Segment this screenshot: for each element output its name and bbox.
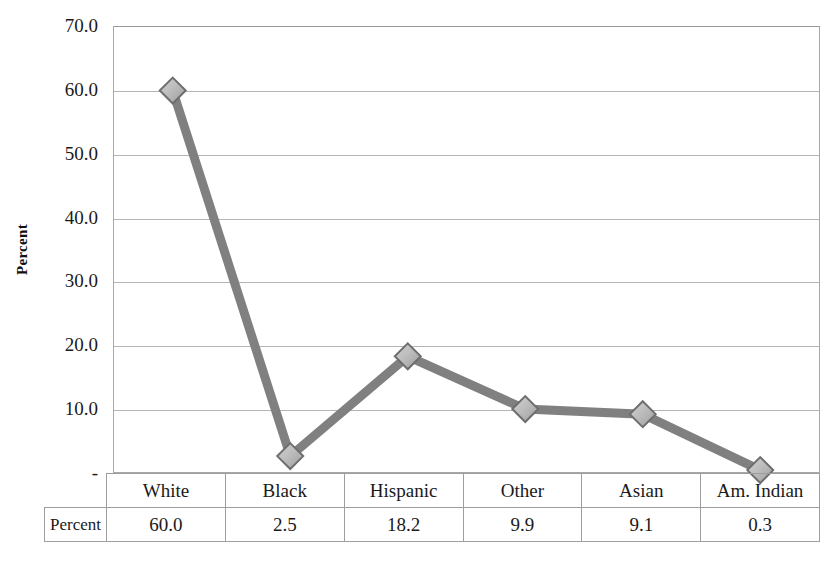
y-axis-tick-label: 30.0: [0, 271, 98, 290]
table-category-cell: Hispanic: [344, 474, 463, 508]
table-row-categories: WhiteBlackHispanicOtherAsianAm. Indian: [45, 474, 820, 508]
table-value-cell: 2.5: [225, 508, 344, 542]
table-value-cell: 0.3: [701, 508, 820, 542]
y-axis-tick-label: 60.0: [0, 80, 98, 99]
table-value-cell: 9.1: [582, 508, 701, 542]
table-category-cell: Other: [463, 474, 582, 508]
y-axis-tick-label: 20.0: [0, 335, 98, 354]
data-point-marker: [512, 396, 538, 422]
table-value-cell: 18.2: [344, 508, 463, 542]
table-category-cell: Black: [225, 474, 344, 508]
table-category-cell: Asian: [582, 474, 701, 508]
series-line-percent: [114, 27, 819, 472]
percent-by-race-line-chart: Percent 70.060.050.040.030.020.010.0- Wh…: [0, 0, 837, 564]
data-point-marker: [160, 78, 186, 104]
data-table: WhiteBlackHispanicOtherAsianAm. Indian P…: [44, 473, 820, 542]
table-category-cell: White: [107, 474, 226, 508]
table-corner-cell: [45, 474, 107, 508]
table-value-cell: 60.0: [107, 508, 226, 542]
table-category-cell: Am. Indian: [701, 474, 820, 508]
y-axis-tick-label: 50.0: [0, 144, 98, 163]
table-row-values: Percent 60.02.518.29.99.10.3: [45, 508, 820, 542]
table-value-cell: 9.9: [463, 508, 582, 542]
y-axis-tick-label: 40.0: [0, 208, 98, 227]
table-row-header: Percent: [45, 508, 107, 542]
plot-area: [113, 26, 820, 473]
y-axis-tick-label: 70.0: [0, 16, 98, 35]
y-axis-tick-label: 10.0: [0, 399, 98, 418]
